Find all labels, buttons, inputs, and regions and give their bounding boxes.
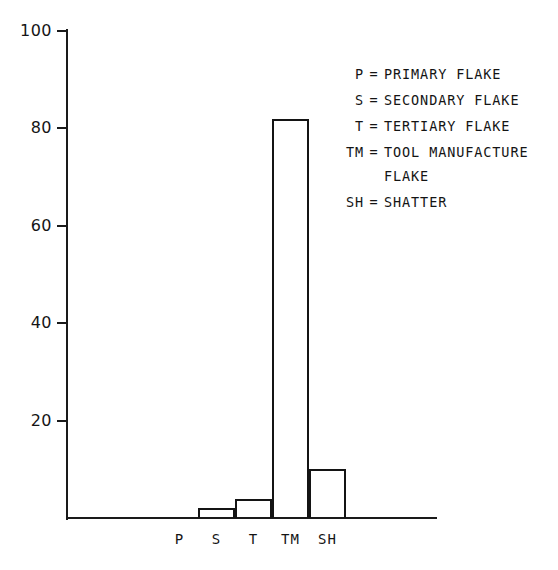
bar-sh — [309, 469, 346, 518]
legend-item-s: S=SECONDARY FLAKE — [338, 88, 553, 112]
y-axis-tick-label-wrap: 20 — [0, 413, 52, 429]
legend: P=PRIMARY FLAKES=SECONDARY FLAKET=TERTIA… — [338, 62, 553, 216]
y-axis-tick-label-wrap: 80 — [0, 120, 52, 136]
legend-item-sh: SH=SHATTER — [338, 190, 553, 214]
y-axis-tick-label: 20 — [6, 413, 52, 429]
bar-t — [235, 499, 272, 518]
legend-description: PRIMARY FLAKE — [384, 62, 553, 86]
legend-separator: = — [364, 114, 384, 138]
x-axis-label-s: S — [198, 531, 235, 547]
y-axis-tick-label: 80 — [6, 120, 52, 136]
legend-item-tm: TM=TOOL MANUFACTURE FLAKE — [338, 140, 553, 188]
legend-key: TM — [338, 140, 364, 164]
y-axis-tick-label-wrap: 40 — [0, 315, 52, 331]
legend-separator: = — [364, 190, 384, 214]
legend-description: TERTIARY FLAKE — [384, 114, 553, 138]
legend-description: SHATTER — [384, 190, 553, 214]
y-axis-tick-label-wrap: 100 — [0, 23, 52, 39]
legend-separator: = — [364, 140, 384, 164]
legend-description: SECONDARY FLAKE — [384, 88, 553, 112]
legend-key: S — [338, 88, 364, 112]
bar-chart-figure: 20406080100 PSTTMSH P=PRIMARY FLAKES=SEC… — [0, 0, 558, 570]
y-axis-tick-label: 100 — [6, 23, 52, 39]
legend-description: TOOL MANUFACTURE FLAKE — [384, 140, 553, 188]
bar-tm — [272, 119, 309, 518]
legend-separator: = — [364, 62, 384, 86]
legend-item-t: T=TERTIARY FLAKE — [338, 114, 553, 138]
legend-key: T — [338, 114, 364, 138]
legend-separator: = — [364, 88, 384, 112]
y-axis-tick-label: 40 — [6, 315, 52, 331]
x-axis-label-t: T — [235, 531, 272, 547]
x-axis-label-sh: SH — [309, 531, 346, 547]
y-axis-tick-label: 60 — [6, 218, 52, 234]
x-axis-label-p: P — [161, 531, 198, 547]
x-axis-label-tm: TM — [272, 531, 309, 547]
bar-s — [198, 508, 235, 518]
legend-item-p: P=PRIMARY FLAKE — [338, 62, 553, 86]
legend-key: SH — [338, 190, 364, 214]
y-axis-tick-label-wrap: 60 — [0, 218, 52, 234]
legend-key: P — [338, 62, 364, 86]
